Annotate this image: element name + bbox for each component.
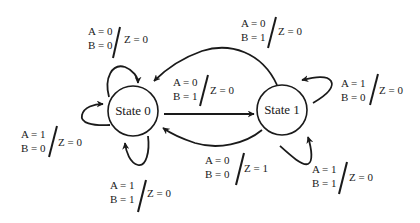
label-s1-self-bottom: A = 1 B = 1 Z = 0	[312, 162, 373, 194]
condition-a: A = 1	[312, 163, 337, 175]
condition-a: A = 0	[205, 154, 230, 166]
condition-b: B = 1	[241, 31, 266, 43]
state-0-label: State 0	[115, 103, 151, 118]
output-z: Z = 0	[124, 33, 148, 45]
state-1-label: State 1	[264, 102, 300, 117]
label-s0-self-bottom: A = 1 B = 1 Z = 0	[110, 179, 171, 212]
edge-s1-self-right	[302, 77, 332, 103]
label-s1-self-right: A = 1 B = 0 Z = 0	[341, 74, 403, 105]
label-s0-self-left: A = 1 B = 0 Z = 0	[21, 126, 82, 157]
label-s1-to-s0-top: A = 0 B = 1 Z = 0	[241, 17, 302, 48]
slash-divider	[339, 162, 347, 194]
condition-a: A = 0	[241, 17, 266, 29]
edge-s0-self-bottom	[125, 136, 149, 165]
condition-b: B = 0	[21, 142, 46, 154]
output-z: Z = 0	[147, 187, 171, 199]
slash-divider	[200, 75, 208, 106]
condition-b: B = 0	[205, 168, 230, 180]
state-diagram: State 0 State 1 A = 0 B = 0 Z = 0 A = 1 …	[0, 0, 420, 223]
slash-divider	[236, 153, 244, 185]
condition-a: A = 1	[110, 179, 135, 191]
output-z: Z = 1	[244, 162, 268, 174]
condition-a: A = 0	[88, 25, 113, 37]
condition-a: A = 1	[341, 77, 366, 89]
output-z: Z = 0	[210, 84, 234, 96]
condition-a: A = 1	[21, 128, 46, 140]
condition-b: B = 0	[341, 91, 366, 103]
slash-divider	[138, 180, 146, 212]
slash-divider	[370, 74, 378, 105]
state-1: State 1	[257, 85, 307, 135]
slash-divider	[49, 126, 57, 157]
output-z: Z = 0	[278, 25, 302, 37]
condition-b: B = 1	[110, 193, 135, 205]
output-z: Z = 0	[379, 84, 403, 96]
edge-s1-self-bottom	[280, 137, 311, 164]
condition-b: B = 0	[88, 39, 113, 51]
condition-b: B = 1	[173, 90, 198, 102]
label-s1-to-s0-bottom: A = 0 B = 0 Z = 1	[205, 153, 268, 185]
condition-a: A = 0	[173, 76, 198, 88]
output-z: Z = 0	[349, 171, 373, 183]
slash-divider	[268, 17, 276, 48]
edge-s1-to-s0-bottom	[163, 128, 262, 146]
output-z: Z = 0	[58, 136, 82, 148]
state-0: State 0	[108, 86, 158, 136]
edge-s0-self-left	[82, 104, 110, 125]
label-s0-to-s1: A = 0 B = 1 Z = 0	[173, 75, 234, 106]
label-s0-self-top: A = 0 B = 0 Z = 0	[88, 25, 148, 58]
slash-divider	[113, 27, 120, 58]
condition-b: B = 1	[312, 177, 337, 189]
